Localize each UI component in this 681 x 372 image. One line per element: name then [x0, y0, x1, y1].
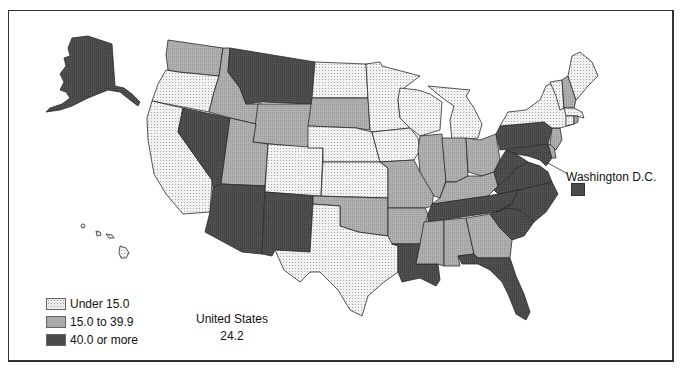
state-rhode-island — [574, 116, 578, 124]
state-north-dakota — [312, 62, 368, 98]
state-new-mexico — [262, 192, 313, 256]
state-arizona — [205, 184, 265, 254]
dc-callout-label: Washington D.C. — [566, 170, 656, 184]
legend-label-mid: 15.0 to 39.9 — [70, 315, 133, 329]
state-indiana — [442, 138, 468, 182]
legend-item-low: Under 15.0 — [46, 295, 138, 312]
national-total-value: 24.2 — [192, 328, 272, 345]
legend-label-high: 40.0 or more — [70, 333, 138, 347]
legend-swatch-high — [46, 334, 66, 346]
state-south-dakota — [308, 98, 370, 130]
legend-label-low: Under 15.0 — [70, 297, 129, 311]
state-kansas — [321, 162, 388, 198]
state-iowa — [372, 128, 420, 162]
state-connecticut — [566, 116, 574, 126]
dc-leader-line — [546, 162, 568, 174]
national-total-label: United States — [192, 311, 272, 328]
state-alaska — [46, 36, 140, 112]
legend-swatch-mid — [46, 316, 66, 328]
dc-callout-swatch — [571, 183, 585, 196]
state-wyoming — [253, 104, 312, 148]
legend-swatch-low — [46, 298, 66, 310]
legend-item-high: 40.0 or more — [46, 331, 138, 348]
legend: Under 15.0 15.0 to 39.9 40.0 or more — [46, 295, 138, 349]
state-colorado — [265, 144, 323, 196]
state-hawaii — [81, 224, 129, 258]
national-total: United States 24.2 — [192, 311, 272, 345]
legend-item-mid: 15.0 to 39.9 — [46, 313, 138, 330]
state-washington — [166, 40, 223, 76]
state-florida — [458, 254, 530, 320]
